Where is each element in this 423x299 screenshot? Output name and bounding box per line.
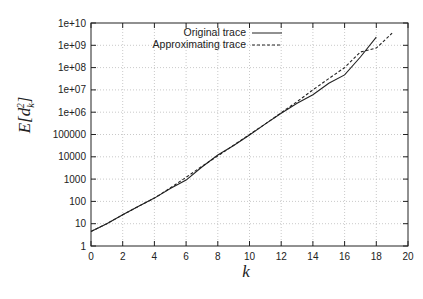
x-tick-label: 18 bbox=[371, 251, 383, 262]
x-tick-label: 14 bbox=[307, 251, 319, 262]
y-tick-label: 1e+09 bbox=[58, 40, 87, 51]
x-tick-label: 0 bbox=[88, 251, 94, 262]
y-tick-label: 1e+08 bbox=[58, 62, 87, 73]
x-axis-label: k bbox=[242, 262, 250, 281]
x-tick-label: 12 bbox=[276, 251, 288, 262]
svg-text:E[dk2]: E[dk2] bbox=[15, 97, 36, 135]
chart-canvas: 024681012141618201101001000100001000001e… bbox=[0, 0, 423, 299]
x-tick-label: 6 bbox=[183, 251, 189, 262]
legend: Original trace Approximating trace bbox=[153, 26, 282, 50]
y-tick-label: 1000 bbox=[64, 174, 87, 185]
y-tick-label: 1e+06 bbox=[58, 107, 87, 118]
y-tick-label: 10000 bbox=[58, 151, 86, 162]
y-tick-label: 100 bbox=[69, 196, 86, 207]
x-tick-label: 2 bbox=[120, 251, 126, 262]
y-tick-label: 1e+10 bbox=[58, 18, 87, 29]
x-tick-label: 8 bbox=[215, 251, 221, 262]
x-tick-label: 20 bbox=[402, 251, 414, 262]
x-tick-label: 4 bbox=[152, 251, 158, 262]
x-tick-label: 16 bbox=[339, 251, 351, 262]
legend-label-original: Original trace bbox=[184, 26, 247, 38]
axis-ticks: 024681012141618201101001000100001000001e… bbox=[53, 18, 414, 263]
y-axis-label: E[dk2] bbox=[15, 97, 36, 135]
y-tick-label: 1 bbox=[80, 241, 86, 252]
y-tick-label: 100000 bbox=[53, 129, 87, 140]
x-tick-label: 10 bbox=[244, 251, 256, 262]
y-tick-label: 1e+07 bbox=[58, 84, 87, 95]
legend-label-approx: Approximating trace bbox=[153, 38, 247, 50]
y-tick-label: 10 bbox=[75, 218, 87, 229]
